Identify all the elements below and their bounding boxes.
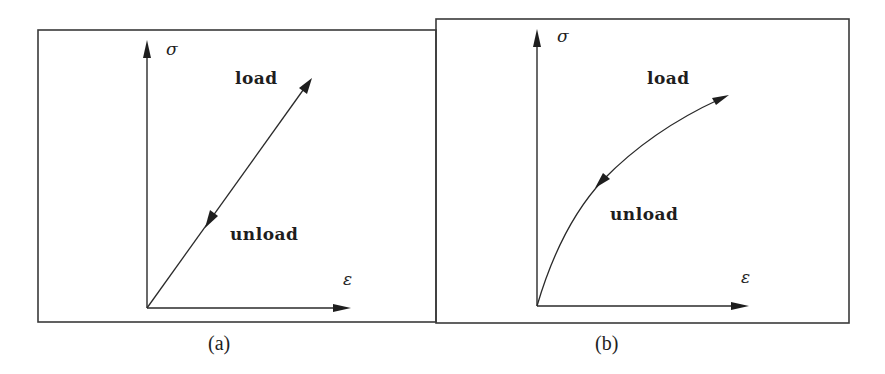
- panel-b-x-axis-arrow-icon: [731, 302, 749, 310]
- panel-b-unload-label: unload: [610, 204, 678, 224]
- panel-a-elastic-line: [147, 86, 306, 308]
- panel-a-x-axis-arrow-icon: [333, 304, 351, 312]
- panel-b-sigma-label: σ: [557, 26, 569, 46]
- panel-b-caption: (b): [595, 332, 618, 355]
- panel-b-load-arrow-icon: [712, 95, 729, 105]
- panel-a-load-arrow-icon: [299, 78, 312, 94]
- panel-a-caption: (a): [208, 332, 230, 355]
- panel-b-y-axis-arrow-icon: [533, 29, 541, 47]
- panel-a-load-label: load: [235, 68, 278, 88]
- panel-a-sigma-label: σ: [166, 39, 178, 59]
- panel-a-epsilon-label: ε: [343, 269, 352, 289]
- panel-b-nonlinear-curve: [537, 99, 720, 306]
- panel-a-y-axis-arrow-icon: [143, 40, 151, 58]
- stress-strain-figure: σ ε load unload (a) σ ε load unload (b): [0, 0, 885, 374]
- panel-a: σ ε load unload (a): [38, 30, 436, 355]
- panel-b-frame: [436, 19, 849, 323]
- panel-b: σ ε load unload (b): [436, 19, 849, 355]
- panel-b-load-label: load: [647, 68, 690, 88]
- panel-b-epsilon-label: ε: [741, 267, 750, 287]
- panel-a-unload-label: unload: [230, 224, 298, 244]
